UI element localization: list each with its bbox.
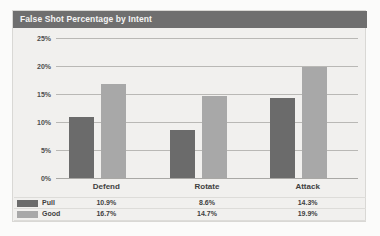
bar-group bbox=[257, 38, 358, 178]
value-defend-pull: 10.9% bbox=[56, 199, 157, 206]
bar-group bbox=[56, 38, 157, 178]
plot-area: 0%5%10%15%20%25% bbox=[56, 38, 358, 178]
y-axis-tick-label: 15% bbox=[37, 90, 51, 97]
bar-rotate-pull bbox=[170, 130, 195, 178]
category-label-rotate: Rotate bbox=[157, 182, 258, 191]
value-rotate-pull: 8.6% bbox=[157, 199, 258, 206]
legend-swatch-pull bbox=[17, 200, 38, 207]
chart-title: False Shot Percentage by Intent bbox=[20, 14, 152, 24]
chart-panel: False Shot Percentage by Intent 0%5%10%1… bbox=[12, 10, 366, 222]
data-table-row: Good16.7%14.7%19.9% bbox=[14, 208, 366, 221]
category-label-attack: Attack bbox=[257, 182, 358, 191]
bar-attack-pull bbox=[270, 98, 295, 178]
y-axis-tick-label: 25% bbox=[37, 34, 51, 41]
category-label-defend: Defend bbox=[56, 182, 157, 191]
legend-label-pull: Pull bbox=[42, 199, 55, 206]
category-axis: DefendRotateAttack bbox=[56, 182, 358, 196]
y-axis-tick-label: 0% bbox=[41, 174, 51, 181]
legend-swatch-good bbox=[17, 211, 38, 218]
bar-group bbox=[157, 38, 258, 178]
bar-attack-good bbox=[302, 67, 327, 178]
y-axis-tick-label: 10% bbox=[37, 118, 51, 125]
bar-defend-good bbox=[101, 84, 126, 178]
bar-defend-pull bbox=[69, 117, 94, 178]
value-defend-good: 16.7% bbox=[56, 210, 157, 217]
value-attack-good: 19.9% bbox=[257, 210, 358, 217]
value-rotate-good: 14.7% bbox=[157, 210, 258, 217]
value-attack-pull: 14.3% bbox=[257, 199, 358, 206]
y-axis-tick-label: 20% bbox=[37, 62, 51, 69]
y-axis-tick-label: 5% bbox=[41, 146, 51, 153]
chart-title-bar: False Shot Percentage by Intent bbox=[13, 11, 367, 28]
chart-screenshot: False Shot Percentage by Intent 0%5%10%1… bbox=[0, 0, 380, 236]
chart-data-table: Pull10.9%8.6%14.3%Good16.7%14.7%19.9% bbox=[14, 197, 366, 222]
bar-rotate-good bbox=[202, 96, 227, 178]
